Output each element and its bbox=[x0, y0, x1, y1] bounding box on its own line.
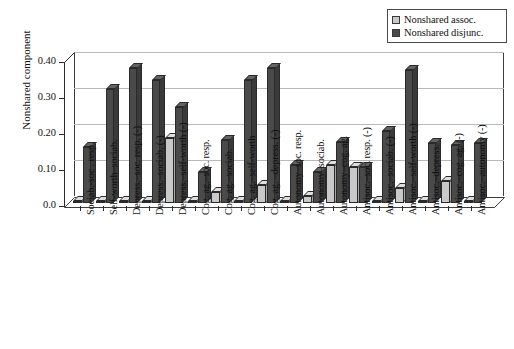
legend-swatch-assoc bbox=[392, 16, 400, 24]
x-tick-mark bbox=[471, 206, 472, 211]
x-axis-label: Self-worth–sociab. bbox=[108, 140, 119, 215]
bar-assoc bbox=[211, 192, 220, 203]
x-axis-label: Cog. ag. –depress. (-) bbox=[269, 130, 280, 215]
x-axis-label: Antisoc.–depress. bbox=[430, 144, 441, 215]
x-axis-label: Autonomy–sociab. bbox=[315, 139, 326, 215]
bar-assoc bbox=[188, 201, 197, 203]
bar-front-face bbox=[349, 167, 358, 203]
x-axis-label: Depress.–self-worth (-) bbox=[177, 122, 188, 215]
bar-assoc bbox=[73, 201, 82, 203]
x-tick-mark bbox=[195, 206, 196, 211]
y-tick-label: 0.10 bbox=[8, 163, 56, 174]
x-axis-label: Cog. ag.–soc. resp. bbox=[200, 139, 211, 215]
x-axis-label: Depress.–sociab. (-) bbox=[154, 135, 165, 215]
x-axis-label: Antisoc.–cog. ag. (-) bbox=[453, 133, 464, 215]
x-tick-mark bbox=[80, 206, 81, 211]
x-axis-label: Antisoc.–sociab. (-) bbox=[384, 137, 395, 216]
x-axis-label: Autonomy–soc. resp. bbox=[292, 130, 303, 215]
bar-front-face bbox=[326, 165, 335, 203]
legend-item-disjunc: Nonshared disjunc. bbox=[392, 26, 502, 39]
bar-front-face bbox=[211, 192, 220, 203]
legend-label-disjunc: Nonshared disjunc. bbox=[404, 26, 483, 39]
bar-front-face bbox=[165, 138, 174, 203]
x-tick-mark bbox=[172, 206, 173, 211]
x-axis-label: Cog. ag.–self-worth bbox=[246, 136, 257, 215]
legend-label-assoc: Nonshared assoc. bbox=[404, 13, 476, 26]
x-axis-label: Cog. ag.–sociab. bbox=[223, 149, 234, 215]
bar-assoc bbox=[119, 201, 128, 203]
y-axis-line bbox=[64, 62, 65, 207]
x-tick-mark bbox=[448, 206, 449, 211]
bar-assoc bbox=[303, 196, 312, 203]
x-axis-label: Antisoc.–self-worth (-) bbox=[407, 124, 418, 216]
bar-assoc bbox=[257, 185, 266, 203]
chart-legend: Nonshared assoc. Nonshared disjunc. bbox=[387, 9, 507, 43]
x-tick-mark bbox=[379, 206, 380, 211]
bar-assoc bbox=[165, 138, 174, 203]
x-tick-mark bbox=[425, 206, 426, 211]
x-axis-label: Antisoc.–soc. resp. (-) bbox=[361, 127, 372, 215]
x-tick-mark bbox=[218, 206, 219, 211]
bar-front-face bbox=[395, 188, 404, 202]
x-tick-mark bbox=[287, 206, 288, 211]
axis-corner-line bbox=[64, 52, 76, 64]
x-axis-label: Autonomy–cog. ag. bbox=[338, 136, 349, 215]
bar-assoc bbox=[418, 201, 427, 203]
x-tick-mark bbox=[310, 206, 311, 211]
chart-figure: Nonshared assoc. Nonshared disjunc. Nons… bbox=[0, 0, 514, 349]
bar-assoc bbox=[349, 167, 358, 203]
x-tick-mark bbox=[264, 206, 265, 211]
bar-assoc bbox=[395, 188, 404, 202]
bar-assoc bbox=[326, 165, 335, 203]
y-tick-mark bbox=[59, 134, 64, 135]
bar-front-face bbox=[441, 181, 450, 203]
x-tick-mark bbox=[241, 206, 242, 211]
legend-swatch-disjunc bbox=[392, 29, 400, 37]
x-tick-mark bbox=[103, 206, 104, 211]
x-axis-label: Antisoc.–autonomy (-) bbox=[476, 124, 487, 215]
y-tick-mark bbox=[59, 206, 64, 207]
x-tick-mark bbox=[149, 206, 150, 211]
x-tick-mark bbox=[402, 206, 403, 211]
y-tick-label: 0.30 bbox=[8, 91, 56, 102]
legend-item-assoc: Nonshared assoc. bbox=[392, 13, 502, 26]
x-axis-label: Sociab.-soc . resp. bbox=[85, 143, 96, 215]
bar-front-face bbox=[303, 196, 312, 203]
y-tick-mark bbox=[59, 170, 64, 171]
y-tick-mark bbox=[59, 98, 64, 99]
bar-assoc bbox=[234, 201, 243, 203]
gridline bbox=[74, 52, 504, 53]
bar-assoc bbox=[280, 201, 289, 203]
y-tick-label: 0.40 bbox=[8, 55, 56, 66]
x-tick-mark bbox=[356, 206, 357, 211]
y-tick-label: 0.0 bbox=[8, 199, 56, 210]
bar-assoc bbox=[96, 201, 105, 203]
x-axis-label: Depress.–soc. resp. (-) bbox=[131, 126, 142, 215]
bar-assoc bbox=[142, 201, 151, 203]
x-tick-mark bbox=[126, 206, 127, 211]
bar-assoc bbox=[441, 181, 450, 203]
bar-front-face bbox=[257, 185, 266, 203]
x-tick-mark bbox=[333, 206, 334, 211]
y-tick-label: 0.20 bbox=[8, 127, 56, 138]
bar-assoc bbox=[372, 201, 381, 203]
bar-assoc bbox=[464, 201, 473, 203]
